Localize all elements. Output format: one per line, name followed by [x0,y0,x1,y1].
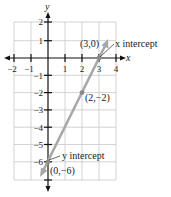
y-tick-1: 1 [39,36,44,46]
y-axis-down-arrow-icon [46,186,51,192]
y-tick-m3: −3 [33,105,43,115]
x-axis-label: x [125,52,131,63]
x-axis-left-arrow-icon [4,56,10,61]
y-tick-m2: −2 [33,88,43,98]
y-axis-label: y [44,1,50,12]
x-tick-m1: −1 [24,64,34,74]
y-intercept-label: y intercept [62,150,105,161]
x-tick-labels: −2 −1 1 2 3 4 [7,64,119,74]
y-tick-labels: 2 1 −1 −2 −3 −4 −5 −6 [33,17,43,167]
x-tick-1: 1 [63,64,68,74]
y-tick-m4: −4 [33,123,43,133]
x-intercept-label: x intercept [115,38,158,49]
line-arrow-down-icon [40,168,48,178]
x-axis [4,54,126,62]
x-tick-2: 2 [80,64,85,74]
y-axis-up-arrow-icon [46,12,51,18]
y-tick-m1: −1 [33,71,43,81]
y-tick-m5: −5 [33,140,43,150]
x-tick-m2: −2 [7,64,17,74]
point-2-m2 [80,90,85,95]
y-tick-m6: −6 [33,157,43,167]
x-tick-4: 4 [114,64,119,74]
x-tick-3: 3 [97,64,102,74]
label-2-m2: (2,−2) [85,92,110,104]
label-3-0: (3,0) [80,38,99,50]
label-0-m6: (0,−6) [50,165,75,177]
graph: x y −2 −1 1 2 3 4 2 1 −1 −2 −3 −4 −5 −6 … [0,0,171,197]
y-tick-2: 2 [39,17,44,27]
